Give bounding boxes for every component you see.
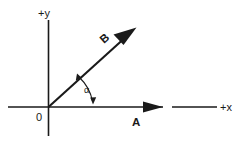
vector-diagram-canvas: +y +x 0 A B α — [0, 0, 241, 142]
vector-b-label: B — [97, 31, 111, 45]
vector-a-label: A — [132, 116, 140, 128]
origin-label: 0 — [36, 111, 42, 123]
y-axis-label: +y — [38, 7, 50, 19]
vector-b-line — [49, 35, 129, 107]
vector-a-arrowhead — [143, 102, 163, 113]
vector-b-arrowhead — [114, 28, 137, 46]
angle-arc-arrowhead-x — [90, 97, 96, 104]
vector-diagram-figure: +y +x 0 A B α — [0, 0, 241, 142]
angle-alpha-label: α — [84, 85, 89, 95]
x-axis-label: +x — [220, 101, 232, 113]
